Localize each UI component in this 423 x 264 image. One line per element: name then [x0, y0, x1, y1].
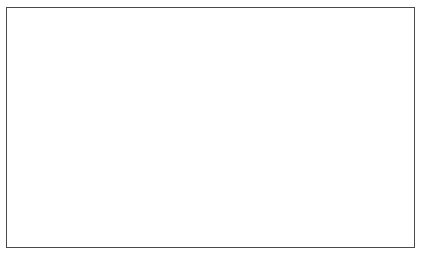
- chart-figure: 1.4 1.6 1.8 2.0 2.2 2.4 2.6 2.8 3.0 3.2 …: [0, 0, 423, 264]
- figure-border: [6, 7, 415, 248]
